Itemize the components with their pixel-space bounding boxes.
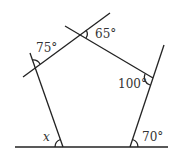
angle-arc-x: [55, 140, 61, 148]
label-75: 75°: [36, 41, 57, 55]
angle-arc-65: [86, 30, 87, 38]
pentagon-diagram: 75° 65° 100° x 70°: [0, 0, 180, 160]
label-65: 65°: [95, 27, 116, 41]
angle-arc-70: [133, 140, 139, 148]
label-100: 100°: [118, 77, 147, 91]
label-x: x: [43, 130, 50, 144]
label-70: 70°: [142, 130, 163, 144]
